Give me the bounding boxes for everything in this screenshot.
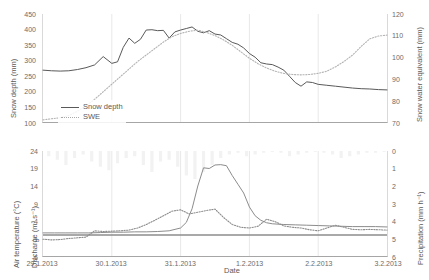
- snow-legend-row-0: Snow depth: [61, 102, 123, 112]
- date-tick-2: 31.1.2013: [165, 259, 196, 268]
- swe-tick-2: 100: [392, 54, 404, 61]
- date-axis-title: Date: [224, 266, 240, 275]
- airtemp-discharge-tick-1: 19: [30, 165, 38, 172]
- precipitation-bar: [82, 151, 85, 154]
- swe-axis-title: Snow water equivalent (mm): [415, 27, 424, 122]
- snow-depth-tick-0: 450: [24, 11, 36, 18]
- precipitation-bar: [245, 151, 248, 156]
- precipitation-bar: [357, 151, 360, 154]
- hydro-plot-area: [42, 151, 388, 257]
- snow-depth-tick-5: 200: [24, 88, 36, 95]
- discharge-axis-title-line: Discharge (m³ s⁻¹): [30, 206, 39, 268]
- precipitation-bar: [133, 151, 136, 156]
- precipitation-bar: [47, 151, 50, 156]
- snow-legend-swatch-solid-icon: [61, 103, 79, 111]
- precipitation-bar: [374, 151, 377, 153]
- precipitation-bar: [219, 151, 222, 158]
- swe-tick-0: 120: [392, 11, 404, 18]
- precipitation-tick-1: 1: [392, 165, 396, 172]
- snow-legend-label-1: SWE: [83, 112, 100, 122]
- precipitation-bar: [125, 151, 128, 158]
- date-tick-1: 30.1.2013: [96, 259, 127, 268]
- swe-tick-4: 80: [392, 98, 400, 105]
- precipitation-bar: [168, 151, 171, 160]
- airtemp-axis-title-line: Air temperature (°C): [12, 201, 21, 268]
- precipitation-bar: [305, 151, 308, 153]
- precipitation-axis-title: Precipitation (mm h⁻¹): [416, 191, 425, 265]
- precipitation-bar: [383, 151, 386, 152]
- series-snow-depth-line: [43, 27, 387, 90]
- snow-depth-tick-2: 350: [24, 42, 36, 49]
- precipitation-tick-2: 2: [392, 183, 396, 190]
- precipitation-tick-labels: 0123456: [392, 151, 418, 257]
- precipitation-bar: [116, 151, 119, 163]
- airtemp-discharge-tick-2: 14: [30, 183, 38, 190]
- snow-depth-tick-4: 250: [24, 73, 36, 80]
- precipitation-bar: [90, 151, 93, 162]
- snow-legend-swatch-dotted-icon: [61, 113, 79, 121]
- precipitation-bar: [56, 151, 59, 160]
- precipitation-bar: [297, 151, 300, 154]
- precipitation-bar: [150, 151, 153, 172]
- hydro-plot-svg: [43, 151, 387, 256]
- date-tick-3: 1.2.2013: [236, 259, 263, 268]
- precipitation-bar: [288, 151, 291, 156]
- date-axis-tick-labels: 29.1.201330.1.201331.1.20131.2.20132.2.2…: [42, 259, 388, 271]
- snow-legend-row-1: SWE: [61, 112, 123, 122]
- precipitation-bar: [107, 151, 110, 170]
- precipitation-tick-5: 5: [392, 236, 396, 243]
- snow-depth-tick-3: 300: [24, 57, 36, 64]
- precipitation-bar: [185, 151, 188, 175]
- airtemp-discharge-axis-title: Air temperature (°C) Discharge (m³ s⁻¹): [5, 201, 41, 268]
- precipitation-tick-3: 3: [392, 201, 396, 208]
- precipitation-bar: [271, 151, 274, 152]
- precipitation-bar: [254, 151, 257, 154]
- precipitation-bar: [99, 151, 102, 167]
- precipitation-bar: [73, 151, 76, 158]
- precipitation-bar: [365, 151, 368, 153]
- snow-depth-tick-7: 100: [24, 120, 36, 127]
- snow-legend-label-0: Snow depth: [83, 102, 123, 112]
- precipitation-bar: [262, 151, 265, 153]
- snow-depth-tick-6: 150: [24, 104, 36, 111]
- swe-tick-3: 90: [392, 76, 400, 83]
- swe-tick-1: 110: [392, 32, 403, 39]
- date-tick-4: 2.2.2013: [305, 259, 332, 268]
- precipitation-bar: [64, 151, 67, 165]
- date-tick-5: 3.2.2013: [374, 259, 401, 268]
- hydro-panel: 24191494-1-6 0123456 29.1.201330.1.20133…: [0, 140, 429, 280]
- precipitation-tick-4: 4: [392, 218, 396, 225]
- swe-tick-5: 70: [392, 120, 400, 127]
- snow-depth-tick-1: 400: [24, 26, 36, 33]
- precipitation-bar: [142, 151, 145, 165]
- precipitation-bar: [176, 151, 179, 167]
- precipitation-bar: [331, 151, 334, 154]
- precipitation-bar: [236, 151, 239, 153]
- precipitation-bar: [314, 151, 317, 152]
- snow-panel: 450400350300250200150100 120110100908070…: [0, 0, 429, 140]
- precipitation-bar: [322, 151, 325, 153]
- airtemp-discharge-tick-0: 24: [30, 148, 38, 155]
- precipitation-bar: [193, 151, 196, 179]
- precipitation-bar: [348, 151, 351, 156]
- precipitation-bar: [340, 151, 343, 158]
- precipitation-bar: [159, 151, 162, 162]
- precipitation-bar: [211, 151, 214, 165]
- precipitation-tick-0: 0: [392, 148, 396, 155]
- precipitation-bar: [279, 151, 282, 153]
- figure-root: 450400350300250200150100 120110100908070…: [0, 0, 429, 280]
- snow-panel-legend: Snow depthSWE: [58, 100, 126, 124]
- snow-depth-axis-title: Snow depth (mm): [9, 59, 18, 118]
- series-discharge-line: [43, 165, 387, 233]
- precipitation-bar: [228, 151, 231, 154]
